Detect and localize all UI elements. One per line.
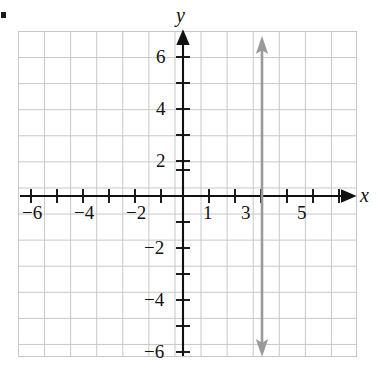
x-tick-label-5: 5 bbox=[297, 203, 307, 222]
y-tick-label-neg6: −6 bbox=[144, 342, 164, 361]
x-tick-label-1: 1 bbox=[203, 203, 213, 222]
y-tick-label-neg4: −4 bbox=[144, 290, 164, 309]
y-tick-label-2: 2 bbox=[156, 151, 166, 170]
y-tick-label-4: 4 bbox=[156, 99, 166, 118]
y-tick-label-neg2: −2 bbox=[144, 238, 164, 257]
x-tick-label-neg4: −4 bbox=[74, 203, 94, 222]
x-tick-label-neg2: −2 bbox=[126, 203, 146, 222]
plot-svg-overlay bbox=[0, 0, 378, 368]
coordinate-plane-figure: −6 −4 −2 1 3 5 6 4 2 −2 −4 −6 y x bbox=[0, 0, 378, 368]
y-axis-label: y bbox=[176, 5, 185, 25]
x-tick-label-neg6: −6 bbox=[22, 203, 42, 222]
y-tick-label-6: 6 bbox=[156, 47, 166, 66]
x-tick-label-3: 3 bbox=[241, 203, 251, 222]
x-axis-label: x bbox=[360, 185, 369, 205]
